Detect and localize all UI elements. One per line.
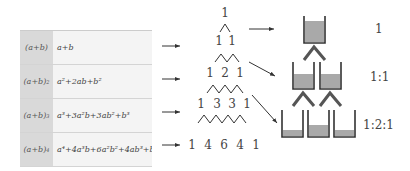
water-container-icon [293,62,314,89]
pascal-number: 1 [228,34,236,48]
pascal-number: 1 [236,66,244,80]
ratio-label: 1:1 [370,70,389,84]
pascal-number: 4 [236,138,244,152]
pascal-number: 1 [197,97,205,111]
water-container-icon [308,110,329,137]
pascal-number: 1 [215,34,223,48]
ratio-label: 1 [375,22,383,36]
pascal-number: 3 [228,97,236,111]
pascal-number: 2 [221,66,229,80]
pascal-number: 4 [204,138,212,152]
water-container-icon [304,16,325,43]
water-container-icon [282,110,303,137]
ratio-label: 1:2:1 [363,118,394,132]
pascal-number: 1 [221,6,229,20]
pascal-number: 3 [213,97,221,111]
water-container-icon [334,110,355,137]
pascal-number: 1 [206,66,214,80]
pascal-number: 6 [220,138,228,152]
pascal-number: 1 [243,97,251,111]
pascal-number: 1 [252,138,260,152]
water-container-icon [320,62,341,89]
pascal-number: 1 [188,138,196,152]
